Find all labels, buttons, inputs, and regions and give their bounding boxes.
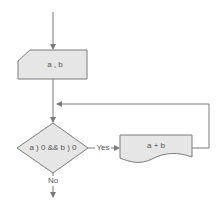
decision-label: a ) 0 && b ) 0 (29, 144, 76, 152)
process-label: a + b (147, 142, 165, 150)
flowchart-canvas (0, 0, 224, 215)
input-label: a , b (47, 61, 63, 69)
no-label: No (48, 177, 58, 185)
yes-label: Yes (96, 144, 109, 152)
